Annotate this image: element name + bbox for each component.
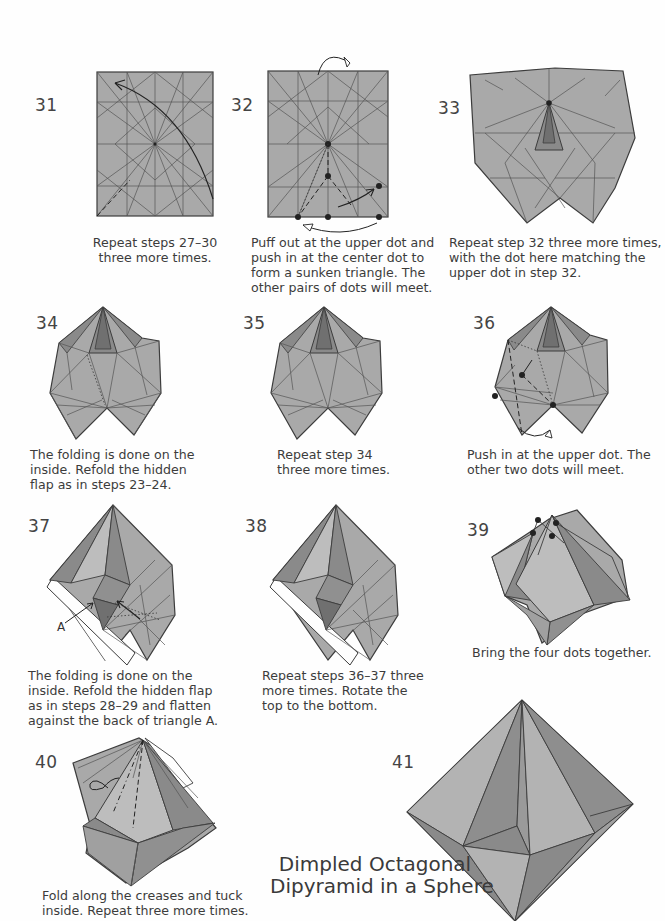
caption-line: more times. Rotate the — [262, 683, 452, 698]
step-32-caption: Puff out at the upper dot and push in at… — [251, 235, 431, 295]
step-34-diagram — [47, 305, 165, 445]
caption-line: upper dot in step 32. — [449, 265, 659, 280]
caption-line: Repeat steps 27–30 — [80, 235, 230, 250]
caption-line: Repeat step 34 — [277, 447, 417, 462]
step-33-diagram — [465, 68, 645, 228]
triangle-a-label: A — [57, 620, 66, 634]
caption-line: three more times. — [80, 250, 230, 265]
caption-line: Puff out at the upper dot and — [251, 235, 431, 250]
caption-line: Repeat step 32 three more times, — [449, 235, 659, 250]
caption-line: push in at the center dot to — [251, 250, 431, 265]
caption-line: as in steps 28–29 and flatten — [28, 698, 228, 713]
step-40-number: 40 — [35, 752, 58, 772]
step-35-diagram — [268, 305, 386, 445]
step-38-number: 38 — [245, 516, 268, 536]
caption-line: Push in at the upper dot. The — [467, 447, 662, 462]
caption-line: Bring the four dots together. — [472, 645, 662, 660]
step-31-number: 31 — [35, 95, 58, 115]
title-line-1: Dimpled Octagonal — [270, 853, 480, 875]
caption-line: Fold along the creases and tuck — [42, 888, 272, 903]
step-32-diagram — [265, 55, 391, 230]
step-39-diagram — [492, 505, 622, 640]
step-37-diagram: A — [45, 505, 180, 665]
step-35-caption: Repeat step 34 three more times. — [277, 447, 417, 477]
step-36-caption: Push in at the upper dot. The other two … — [467, 447, 662, 477]
caption-line: Repeat steps 36–37 three — [262, 668, 452, 683]
step-40-caption: Fold along the creases and tuck inside. … — [42, 888, 272, 918]
step-33-caption: Repeat step 32 three more times, with th… — [449, 235, 659, 280]
step-36-diagram — [490, 305, 615, 450]
step-31-diagram — [95, 68, 217, 218]
caption-line: The folding is done on the — [30, 447, 220, 462]
step-32-number: 32 — [231, 95, 254, 115]
step-39-number: 39 — [467, 520, 490, 540]
step-33-number: 33 — [438, 98, 461, 118]
caption-line: form a sunken triangle. The — [251, 265, 431, 280]
caption-line: flap as in steps 23–24. — [30, 477, 220, 492]
caption-line: three more times. — [277, 462, 417, 477]
caption-line: against the back of triangle A. — [28, 713, 228, 728]
step-35-number: 35 — [243, 313, 266, 333]
caption-line: The folding is done on the — [28, 668, 228, 683]
caption-line: with the dot here matching the — [449, 250, 659, 265]
caption-line: other two dots will meet. — [467, 462, 662, 477]
caption-line: other pairs of dots will meet. — [251, 280, 431, 295]
step-39-caption: Bring the four dots together. — [472, 645, 662, 660]
caption-line: inside. Refold the hidden — [30, 462, 220, 477]
title-line-2: Dipyramid in a Sphere — [270, 875, 480, 897]
step-31-caption: Repeat steps 27–30 three more times. — [80, 235, 230, 265]
step-38-diagram — [268, 505, 403, 665]
caption-line: inside. Refold the hidden flap — [28, 683, 228, 698]
step-37-caption: The folding is done on the inside. Refol… — [28, 668, 228, 728]
step-34-caption: The folding is done on the inside. Refol… — [30, 447, 220, 492]
step-40-diagram — [73, 738, 223, 888]
model-title: Dimpled Octagonal Dipyramid in a Sphere — [270, 853, 480, 897]
caption-line: inside. Repeat three more times. — [42, 903, 272, 918]
